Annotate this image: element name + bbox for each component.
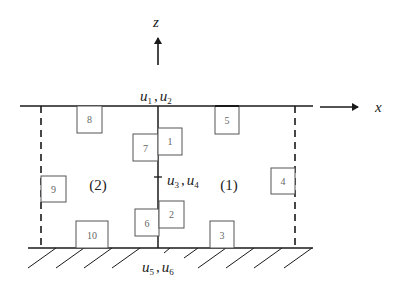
- region-label-2: (2): [89, 177, 107, 194]
- element-label-1: 1: [168, 136, 173, 147]
- element-label-3: 3: [220, 230, 225, 241]
- element-label-10: 10: [87, 230, 97, 241]
- element-label-2: 2: [169, 209, 174, 220]
- element-label-5: 5: [225, 115, 230, 126]
- x-axis-label: x: [374, 99, 382, 115]
- z-axis: z: [152, 14, 159, 65]
- x-axis: x: [320, 99, 382, 115]
- element-box-4: 4: [271, 168, 295, 194]
- element-box-8: 8: [77, 106, 102, 133]
- element-box-9: 9: [41, 176, 66, 202]
- element-box-5: 5: [215, 106, 239, 134]
- diagram-canvas: z x 8 5 7 1: [0, 0, 405, 292]
- dof-label-middle: u3,u4: [167, 172, 199, 190]
- dof-label-top: u1,u2: [140, 88, 172, 106]
- element-box-2: 2: [159, 201, 184, 228]
- ground-hatching-icon: [28, 248, 312, 268]
- element-label-6: 6: [145, 218, 150, 229]
- element-box-7: 7: [133, 134, 158, 161]
- element-label-9: 9: [51, 184, 56, 195]
- element-label-8: 8: [87, 114, 92, 125]
- z-axis-label: z: [152, 14, 159, 30]
- diagram-svg: z x 8 5 7 1: [0, 0, 405, 292]
- element-box-6: 6: [135, 209, 159, 236]
- element-box-10: 10: [76, 221, 108, 248]
- element-label-4: 4: [281, 176, 286, 187]
- element-box-1: 1: [158, 128, 182, 155]
- dof-label-bottom: u5,u6: [142, 259, 174, 277]
- region-label-1: (1): [220, 177, 238, 194]
- element-label-7: 7: [143, 143, 148, 154]
- element-box-3: 3: [210, 221, 234, 248]
